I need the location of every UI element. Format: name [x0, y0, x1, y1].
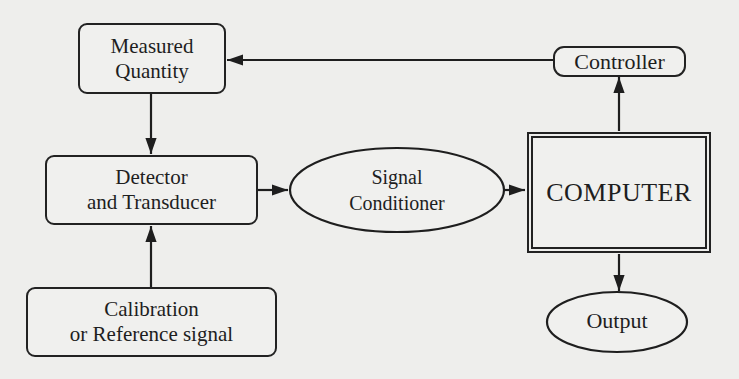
measured-quantity-label-line2: Quantity — [111, 59, 194, 84]
detector-label-line1: Detector — [87, 165, 216, 190]
detector-transducer-node: Detector and Transducer — [45, 155, 258, 225]
output-node: Output — [557, 308, 677, 334]
calibration-reference-node: Calibration or Reference signal — [26, 287, 277, 357]
calibration-label-line1: Calibration — [70, 297, 233, 322]
detector-label-line2: and Transducer — [87, 190, 216, 215]
output-label: Output — [586, 308, 647, 333]
controller-node: Controller — [553, 46, 686, 77]
conditioner-label-line1: Signal — [300, 164, 494, 190]
conditioner-label-line2: Conditioner — [300, 190, 494, 216]
measured-quantity-label-line1: Measured — [111, 34, 194, 59]
measured-quantity-node: Measured Quantity — [78, 23, 226, 94]
computer-node: COMPUTER — [531, 136, 707, 249]
calibration-label-line2: or Reference signal — [70, 322, 233, 347]
signal-conditioner-node: Signal Conditioner — [300, 164, 494, 216]
computer-label: COMPUTER — [546, 180, 692, 205]
controller-label: Controller — [574, 49, 664, 74]
